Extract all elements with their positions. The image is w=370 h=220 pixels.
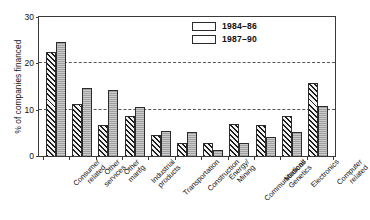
bar-group bbox=[148, 17, 174, 156]
legend-item: 1984–86 bbox=[192, 21, 257, 31]
bar bbox=[46, 52, 56, 156]
x-axis-label: Industrialproducts bbox=[150, 158, 183, 191]
bar bbox=[282, 116, 292, 156]
bar bbox=[213, 150, 223, 156]
diagonal-hatch-swatch-icon bbox=[192, 22, 216, 31]
legend-item-label: 1987–90 bbox=[222, 34, 257, 44]
chart-legend: 1984–86 1987–90 bbox=[192, 21, 257, 44]
legend-item-label: 1984–86 bbox=[222, 21, 257, 31]
bar bbox=[108, 90, 118, 156]
bar bbox=[308, 83, 318, 156]
bar bbox=[318, 106, 328, 156]
y-axis-tick-label: 10 bbox=[25, 105, 39, 115]
bar bbox=[229, 124, 239, 156]
bar bbox=[98, 125, 108, 156]
bar bbox=[161, 131, 171, 156]
plot-area: 0102030 bbox=[38, 16, 336, 157]
bar-group bbox=[305, 17, 331, 156]
bar-group bbox=[43, 17, 69, 156]
x-axis-label: Electronics bbox=[310, 158, 341, 189]
bar bbox=[256, 125, 266, 156]
y-axis-tick-label: 30 bbox=[25, 12, 39, 22]
bar bbox=[187, 132, 197, 156]
x-axis-label: Medical/Genetics bbox=[282, 158, 314, 190]
bar-group bbox=[95, 17, 121, 156]
bar bbox=[239, 143, 249, 156]
solid-gray-swatch-icon bbox=[192, 35, 216, 44]
x-axis-label-group: ConsumerrelatedOtherservicesOthermanfgIn… bbox=[38, 158, 336, 218]
bar bbox=[151, 135, 161, 156]
bar bbox=[72, 104, 82, 156]
legend-item: 1987–90 bbox=[192, 34, 257, 44]
x-axis-label: Othermanfg bbox=[121, 158, 147, 184]
bar-group-container bbox=[39, 17, 335, 156]
bar bbox=[203, 143, 213, 156]
y-axis-title: % of companies financed bbox=[14, 12, 23, 162]
bar-group bbox=[122, 17, 148, 156]
bar bbox=[266, 137, 276, 156]
bar bbox=[82, 88, 92, 156]
bar bbox=[125, 116, 135, 156]
bar-group bbox=[69, 17, 95, 156]
y-axis-tick-label: 20 bbox=[25, 58, 39, 68]
bar bbox=[135, 107, 145, 156]
bar-group bbox=[279, 17, 305, 156]
bar bbox=[56, 42, 66, 156]
bar bbox=[177, 143, 187, 156]
bar bbox=[292, 132, 302, 156]
